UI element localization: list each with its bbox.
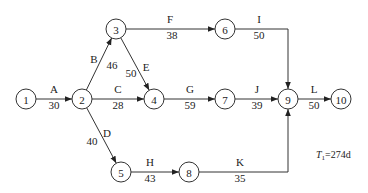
node-label: 9 bbox=[285, 94, 291, 106]
activity-J: J39 bbox=[235, 83, 278, 111]
activity-D: D40 bbox=[87, 108, 117, 163]
duration-label: 46 bbox=[107, 59, 119, 71]
activity-label: D bbox=[103, 127, 111, 139]
activity-label: E bbox=[143, 61, 150, 73]
activity-label: H bbox=[146, 156, 154, 168]
activity-E: E50 bbox=[121, 38, 150, 90]
duration-label: 59 bbox=[185, 99, 197, 111]
node-label: 1 bbox=[23, 94, 29, 106]
duration-label: 50 bbox=[254, 29, 266, 41]
duration-label: 30 bbox=[49, 99, 61, 111]
activity-C: C28 bbox=[92, 83, 144, 111]
node-label: 4 bbox=[151, 94, 157, 106]
duration-label: 50 bbox=[309, 99, 321, 111]
duration-label: 28 bbox=[113, 99, 125, 111]
node-2: 2 bbox=[72, 89, 92, 109]
activity-label: J bbox=[255, 83, 260, 95]
duration-label: 40 bbox=[87, 135, 99, 147]
svg-text:T1=274d: T1=274d bbox=[316, 149, 351, 162]
activity-label: A bbox=[50, 83, 58, 95]
activity-A: A30 bbox=[36, 83, 72, 111]
activity-K: K35 bbox=[199, 109, 288, 184]
node-1: 1 bbox=[16, 89, 36, 109]
activity-label: F bbox=[167, 13, 173, 25]
duration-label: 39 bbox=[252, 99, 264, 111]
duration-label: 43 bbox=[145, 172, 157, 184]
node-8: 8 bbox=[179, 162, 199, 182]
node-9: 9 bbox=[278, 89, 298, 109]
activity-H: H43 bbox=[131, 156, 179, 184]
node-5: 5 bbox=[111, 162, 131, 182]
activity-label: I bbox=[257, 13, 261, 25]
activity-L: L50 bbox=[298, 83, 331, 111]
node-label: 6 bbox=[222, 24, 228, 36]
activity-label: B bbox=[90, 53, 97, 65]
activity-label: L bbox=[311, 83, 318, 95]
activity-label: C bbox=[114, 83, 121, 95]
duration-label: 38 bbox=[167, 29, 179, 41]
node-label: 5 bbox=[118, 167, 124, 179]
node-label: 2 bbox=[79, 94, 85, 106]
activity-label: K bbox=[236, 156, 244, 168]
node-3: 3 bbox=[106, 19, 126, 39]
total-duration-note: T1=274d bbox=[316, 149, 351, 162]
duration-label: 35 bbox=[235, 172, 247, 184]
node-label: 3 bbox=[113, 24, 119, 36]
activity-G: G59 bbox=[164, 83, 215, 111]
node-4: 4 bbox=[144, 89, 164, 109]
network-diagram: A30B46C28D40E50F38G59H43I50J39K35L50 123… bbox=[0, 0, 368, 193]
activity-I: I50 bbox=[235, 13, 288, 89]
activity-B: B46 bbox=[86, 38, 118, 90]
nodes: 12345678910 bbox=[16, 19, 351, 182]
activity-F: F38 bbox=[126, 13, 215, 41]
node-label: 8 bbox=[186, 167, 192, 179]
node-7: 7 bbox=[215, 89, 235, 109]
activity-label: G bbox=[186, 83, 194, 95]
node-6: 6 bbox=[215, 19, 235, 39]
node-label: 10 bbox=[336, 94, 348, 106]
duration-label: 50 bbox=[126, 67, 138, 79]
node-label: 7 bbox=[222, 94, 228, 106]
node-10: 10 bbox=[331, 89, 351, 109]
